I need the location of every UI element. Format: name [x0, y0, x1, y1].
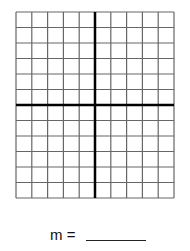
coordinate-grid	[15, 11, 175, 199]
slope-answer-blank[interactable]	[86, 240, 146, 241]
slope-label: m =	[50, 226, 75, 243]
